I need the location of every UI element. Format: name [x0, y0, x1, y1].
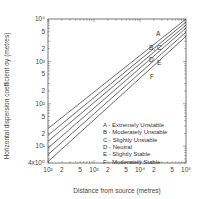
y-tick-label: 2: [41, 45, 45, 52]
x-tick-label: 5: [170, 166, 174, 173]
y-axis-title: Horizontal dispersion coefficient σy (me…: [3, 33, 11, 160]
curve-f: [48, 36, 186, 161]
x-tick-label: 10³: [89, 166, 99, 173]
legend-item: B - Moderately Unstable: [103, 129, 168, 135]
x-tick-label: 10⁴: [135, 166, 145, 173]
legend-item: A - Extremely Unstable: [103, 122, 165, 128]
y-tick-label: 10²: [36, 100, 46, 107]
x-tick-label: 2: [60, 166, 64, 173]
y-tick-label: 10⁴: [35, 15, 45, 22]
curve-label: E: [157, 59, 162, 66]
y-tick-label: 5: [41, 70, 45, 77]
x-tick-label: 2: [106, 166, 110, 173]
curve-label: A: [156, 30, 161, 37]
curve-b: [48, 22, 186, 135]
legend-item: D - Neutral: [103, 144, 132, 150]
x-tick-label: 10⁵: [181, 166, 191, 173]
y-tick-label: 2: [41, 130, 45, 137]
y-tick-label: 10³: [36, 58, 46, 65]
x-tick-label: 2: [152, 166, 156, 173]
curve-label: F: [150, 73, 154, 80]
y-tick-label: 5: [41, 113, 45, 120]
legend-item: C - Slightly Unstable: [103, 137, 158, 143]
curve-label: D: [149, 56, 154, 63]
x-tick-label: 10²: [43, 166, 53, 173]
legend: A - Extremely UnstableB - Moderately Uns…: [103, 122, 168, 165]
y-tick-label: 5: [41, 28, 45, 35]
legend-item: E - Slightly Stable: [103, 151, 151, 157]
legend-item: F - Moderately Stable: [103, 159, 161, 165]
x-tick-label: 5: [78, 166, 82, 173]
curve-label: B, C: [149, 44, 162, 51]
dispersion-chart: 10²2510³2510⁴2510⁵4x10⁰10¹2510²2510³2510…: [0, 0, 204, 199]
y-tick-label: 2: [41, 87, 45, 94]
x-axis-title: Distance from source (metres): [73, 187, 160, 195]
y-tick-label: 10¹: [36, 142, 46, 149]
x-tick-label: 5: [124, 166, 128, 173]
curve-a: [48, 19, 186, 129]
y-tick-label: 4x10⁰: [28, 159, 45, 166]
